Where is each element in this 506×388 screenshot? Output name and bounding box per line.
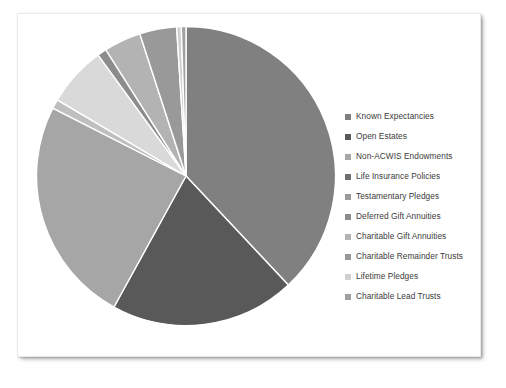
legend-item-label: Deferred Gift Annuities <box>356 206 441 226</box>
legend-item[interactable]: Testamentary Pledges <box>345 186 475 206</box>
legend-item[interactable]: Charitable Lead Trusts <box>345 286 475 306</box>
legend-swatch-icon <box>345 114 351 120</box>
legend-item[interactable]: Known Expectancies <box>345 106 475 126</box>
screenshot-root: Known ExpectanciesOpen EstatesNon-ACWIS … <box>0 0 506 388</box>
legend-swatch-icon <box>345 254 351 260</box>
legend-swatch-icon <box>345 174 351 180</box>
legend-swatch-icon <box>345 274 351 280</box>
legend-item[interactable]: Charitable Gift Annuities <box>345 226 475 246</box>
chart-card: Known ExpectanciesOpen EstatesNon-ACWIS … <box>17 13 481 357</box>
pie-chart-svg <box>35 25 337 327</box>
legend-item[interactable]: Charitable Remainder Trusts <box>345 246 475 266</box>
legend-item-label: Non-ACWIS Endowments <box>356 146 452 166</box>
legend-swatch-icon <box>345 154 351 160</box>
legend-swatch-icon <box>345 194 351 200</box>
legend-item-label: Known Expectancies <box>356 106 434 126</box>
pie-slice-group <box>36 26 335 325</box>
legend-swatch-icon <box>345 134 351 140</box>
legend-item-label: Charitable Lead Trusts <box>356 286 441 306</box>
legend-swatch-icon <box>345 214 351 220</box>
chart-plot-area: Known ExpectanciesOpen EstatesNon-ACWIS … <box>18 14 480 356</box>
legend-item-label: Charitable Remainder Trusts <box>356 246 463 266</box>
legend-swatch-icon <box>345 294 351 300</box>
pie-chart <box>35 25 337 327</box>
legend-item[interactable]: Open Estates <box>345 126 475 146</box>
legend-item-label: Testamentary Pledges <box>356 186 439 206</box>
legend-item[interactable]: Non-ACWIS Endowments <box>345 146 475 166</box>
legend-item-label: Open Estates <box>356 126 407 146</box>
legend-item-label: Life Insurance Policies <box>356 166 440 186</box>
legend-item-label: Lifetime Pledges <box>356 266 418 286</box>
legend-item[interactable]: Lifetime Pledges <box>345 266 475 286</box>
legend-item[interactable]: Deferred Gift Annuities <box>345 206 475 226</box>
chart-legend: Known ExpectanciesOpen EstatesNon-ACWIS … <box>345 106 475 306</box>
legend-item[interactable]: Life Insurance Policies <box>345 166 475 186</box>
legend-item-label: Charitable Gift Annuities <box>356 226 446 246</box>
legend-swatch-icon <box>345 234 351 240</box>
